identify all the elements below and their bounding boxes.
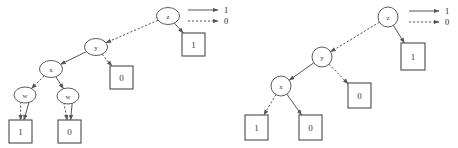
legend-label-1: 1 [224, 5, 228, 15]
node-label: z [166, 13, 169, 21]
terminal-label: 1 [411, 52, 416, 62]
node-label: z [386, 14, 389, 22]
edge-1-L_x-to-L_w2 [56, 77, 64, 89]
decision-node-w[interactable]: w [14, 87, 36, 103]
terminal-node-1[interactable]: 1 [9, 120, 32, 143]
node-label: x [49, 66, 53, 74]
decision-node-x[interactable]: x [271, 76, 291, 96]
decision-node-z[interactable]: z [157, 8, 180, 25]
node-label: x [279, 83, 283, 91]
terminal-label: 0 [67, 127, 72, 137]
edge-0-L_y-to-L_t2 [102, 54, 112, 66]
decision-node-z[interactable]: z [378, 7, 398, 27]
legend-right: 10 [409, 6, 449, 27]
edge-1-R_x-to-R_t4 [287, 94, 302, 115]
decision-node-y[interactable]: y [312, 47, 332, 67]
edges-layer [21, 20, 405, 120]
terminal-label: 0 [308, 123, 313, 133]
legend-layer: 1010 [188, 5, 449, 27]
edge-0-R_x-to-R_t3 [264, 95, 276, 115]
edge-0-L_x-to-L_w1 [31, 76, 44, 89]
edge-1-L_w1-to-L_t3 [24, 102, 29, 120]
legend-left: 10 [188, 5, 228, 26]
legend-label-0: 0 [224, 16, 228, 26]
terminal-node-1[interactable]: 1 [245, 115, 268, 140]
edge-1-L_z-to-L_t1 [174, 23, 183, 33]
terminal-label: 1 [254, 123, 259, 133]
node-label: y [94, 44, 98, 52]
terminal-node-0[interactable]: 0 [348, 83, 371, 108]
decision-node-y[interactable]: y [85, 39, 108, 56]
legend-label-0: 0 [445, 17, 449, 27]
terminal-label: 1 [191, 40, 196, 50]
legend-label-1: 1 [445, 6, 449, 16]
terminal-label: 0 [357, 91, 362, 101]
edge-1-L_w2-to-L_t4 [71, 103, 73, 120]
edge-1-L_y-to-L_x [61, 52, 87, 65]
terminal-label: 0 [119, 73, 124, 83]
edge-1-R_y-to-R_x [289, 63, 314, 80]
edge-0-R_y-to-R_t2 [329, 64, 348, 84]
bdd-diagram-pair: zyxwwzyx 10101010 1010 [0, 0, 458, 148]
terminal-node-1[interactable]: 1 [182, 33, 205, 56]
terminal-label: 1 [18, 127, 23, 137]
node-label: y [320, 54, 324, 62]
edge-0-L_w2-to-L_t4 [64, 103, 67, 120]
edge-1-R_z-to-R_t1 [393, 25, 404, 43]
decision-node-x[interactable]: x [40, 61, 63, 78]
terminal-node-1[interactable]: 1 [401, 43, 425, 70]
edge-0-L_z-to-L_y [106, 20, 158, 42]
figure-canvas: zyxwwzyx 10101010 1010 [0, 0, 458, 148]
nodes-layer: zyxwwzyx [14, 7, 398, 104]
decision-node-w[interactable]: w [57, 88, 79, 104]
terminal-node-0[interactable]: 0 [299, 115, 322, 140]
edge-0-R_z-to-R_y [331, 22, 380, 52]
terminal-node-0[interactable]: 0 [58, 120, 81, 143]
terminal-node-0[interactable]: 0 [110, 66, 133, 89]
